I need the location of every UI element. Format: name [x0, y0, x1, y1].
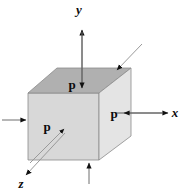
x-axis-label: x	[171, 105, 179, 120]
p-label-right: p	[110, 106, 117, 121]
cube-front-face	[28, 93, 99, 160]
diagram-canvas: y x z p p p	[0, 0, 194, 193]
y-axis-label: y	[74, 2, 82, 17]
z-axis-label: z	[17, 176, 24, 191]
p-label-front: p	[43, 119, 50, 134]
pressure-cube-diagram: y x z p p p	[0, 0, 194, 193]
arrow-top-back-diag	[117, 44, 142, 70]
p-label-top: p	[68, 77, 75, 92]
